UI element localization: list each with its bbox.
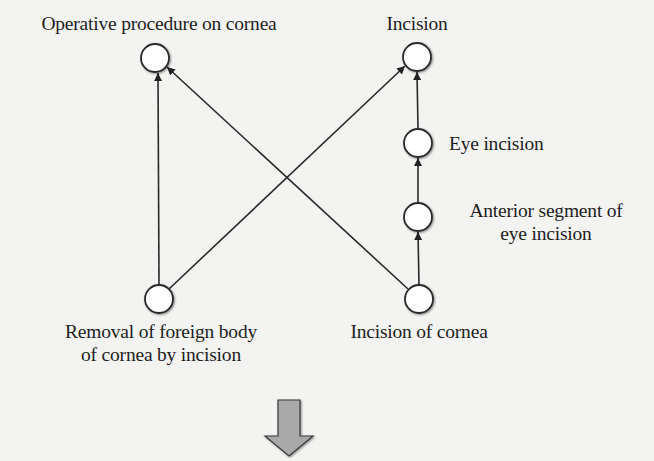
edges xyxy=(158,66,419,289)
label-removal-of-foreign-body: Removal of foreign body of cornea by inc… xyxy=(30,320,292,366)
edge-removal-to-operative xyxy=(158,73,159,285)
label-incision: Incision xyxy=(372,12,462,35)
label-anterior-segment-of-eye-incision: Anterior segment of eye incision xyxy=(448,199,644,245)
node-anterior-segment-of-eye-incision[interactable] xyxy=(404,203,432,231)
down-arrow-icon xyxy=(265,400,313,456)
node-incision-of-cornea[interactable] xyxy=(405,285,433,313)
edge-eye-incision-to-incision xyxy=(417,72,418,129)
label-incision-of-cornea: Incision of cornea xyxy=(328,320,510,343)
node-eye-incision[interactable] xyxy=(404,129,432,157)
node-removal-of-foreign-body[interactable] xyxy=(145,285,173,313)
edge-incision-of-cornea-to-anterior xyxy=(418,232,419,285)
node-incision[interactable] xyxy=(403,43,431,71)
label-eye-incision: Eye incision xyxy=(449,132,569,155)
node-operative-procedure-on-cornea[interactable] xyxy=(141,44,169,72)
label-operative-procedure-on-cornea: Operative procedure on cornea xyxy=(12,12,306,35)
